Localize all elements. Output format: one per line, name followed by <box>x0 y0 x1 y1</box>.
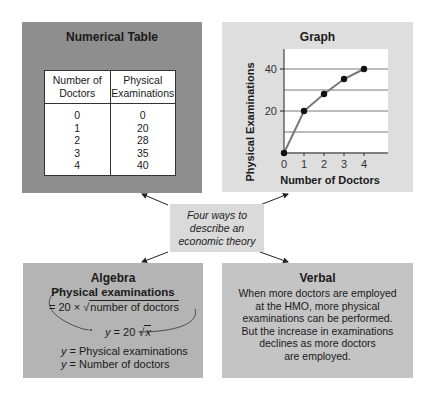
verbal-panel: Verbal When more doctors are employed at… <box>222 263 413 378</box>
table-cell: 0 <box>45 109 110 122</box>
verbal-description: When more doctors are employed at the HM… <box>228 287 407 363</box>
table-cell: 2 <box>45 134 110 147</box>
xtick-label: 4 <box>361 158 367 170</box>
xtick-label: 3 <box>341 158 347 170</box>
ytick-label: 20 <box>265 105 277 117</box>
numerical-table-title: Numerical Table <box>22 30 202 44</box>
header-physical-examinations: PhysicalExaminations <box>111 71 176 103</box>
xtick-label: 2 <box>321 158 327 170</box>
variable-definition-x: y = Number of doctors <box>61 358 170 370</box>
doctors-column: 0 1 2 3 4 <box>45 104 111 175</box>
algebra-title: Algebra <box>23 271 203 285</box>
center-caption-box: Four ways to describe an economic theory <box>170 204 264 252</box>
table-cell: 1 <box>45 122 110 135</box>
table-cell: 0 <box>111 109 176 122</box>
equation-symbolic-form: y = 20 √x <box>105 326 151 338</box>
examinations-column: 0 20 28 35 40 <box>111 104 176 175</box>
xtick-label: 0 <box>281 158 287 170</box>
table-cell: 4 <box>45 159 110 172</box>
equation-title: Physical examinations <box>23 286 203 298</box>
numerical-table: Number ofDoctors PhysicalExaminations 0 … <box>44 70 176 176</box>
table-cell: 3 <box>45 147 110 160</box>
center-caption-line: Four ways to <box>170 209 264 222</box>
table-cell: 40 <box>111 159 176 172</box>
table-cell: 20 <box>111 122 176 135</box>
variable-definition-y: y = Physical examinations <box>61 345 188 357</box>
xtick-label: 1 <box>301 158 307 170</box>
header-number-of-doctors: Number ofDoctors <box>45 71 111 103</box>
y-axis-label: Physical Examinations <box>244 62 256 181</box>
algebra-panel: Algebra Physical examinations = 20 × √nu… <box>23 263 203 378</box>
table-cell: 28 <box>111 134 176 147</box>
center-caption-line: economic theory <box>170 235 264 248</box>
table-cell: 35 <box>111 147 176 160</box>
table-header-row: Number ofDoctors PhysicalExaminations <box>45 71 175 104</box>
verbal-title: Verbal <box>222 271 413 285</box>
graph-panel: Graph 40 20 0 1 2 3 4 Number o <box>222 22 413 192</box>
ytick-label: 40 <box>265 63 277 75</box>
x-axis-label: Number of Doctors <box>280 174 380 186</box>
line-chart: 40 20 0 1 2 3 4 Number of Doctors Physic… <box>222 22 413 192</box>
equation-word-form: = 20 × √number of doctors <box>49 301 179 313</box>
center-caption-line: describe an <box>170 222 264 235</box>
numerical-table-panel: Numerical Table Number ofDoctors Physica… <box>22 22 202 193</box>
